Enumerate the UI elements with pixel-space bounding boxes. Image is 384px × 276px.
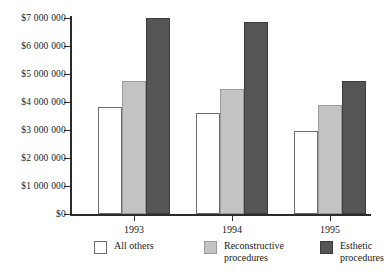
y-axis-tick-label: $0 bbox=[56, 209, 66, 219]
y-axis-tick-label: $2 000 000 bbox=[21, 153, 66, 163]
bar-1994-esthetic-procedures bbox=[244, 22, 268, 214]
y-axis-tick-label: $5 000 000 bbox=[21, 69, 66, 79]
legend-item-esthetic-procedures: Esthetic procedures bbox=[320, 240, 384, 264]
x-axis-line bbox=[70, 214, 371, 216]
bar-1995-all-others bbox=[294, 131, 318, 214]
x-axis-label-1994: 1994 bbox=[202, 224, 262, 236]
x-axis-tick bbox=[134, 215, 135, 221]
bar-1995-esthetic-procedures bbox=[342, 81, 366, 214]
bar-1995-reconstructive-procedures bbox=[318, 105, 342, 214]
y-axis-tick-label: $7 000 000 bbox=[21, 13, 66, 23]
legend-item-reconstructive-procedures: Reconstructive procedures bbox=[204, 240, 284, 264]
bar-chart: $0$1 000 000$2 000 000$3 000 000$4 000 0… bbox=[0, 0, 384, 276]
x-axis-label-1993: 1993 bbox=[104, 224, 164, 236]
x-axis-tick bbox=[232, 215, 233, 221]
legend-item-all-others: All others bbox=[94, 240, 154, 254]
legend-label: Reconstructive procedures bbox=[224, 240, 284, 264]
bar-1993-reconstructive-procedures bbox=[122, 81, 146, 214]
legend-swatch-icon bbox=[204, 241, 217, 254]
legend-swatch-icon bbox=[320, 241, 333, 254]
y-axis-tick-label: $4 000 000 bbox=[21, 97, 66, 107]
legend-label: All others bbox=[114, 240, 154, 252]
bar-1993-all-others bbox=[98, 107, 122, 214]
legend-label: Esthetic procedures bbox=[340, 240, 384, 264]
chart-legend: All othersReconstructive proceduresEsthe… bbox=[70, 240, 380, 274]
y-axis-tick-label: $1 000 000 bbox=[21, 181, 66, 191]
x-axis-label-1995: 1995 bbox=[300, 224, 360, 236]
legend-swatch-icon bbox=[94, 241, 107, 254]
y-axis-tick-label: $3 000 000 bbox=[21, 125, 66, 135]
bar-1993-esthetic-procedures bbox=[146, 18, 170, 214]
bar-1994-all-others bbox=[196, 113, 220, 214]
bar-1994-reconstructive-procedures bbox=[220, 89, 244, 214]
y-axis-tick-label: $6 000 000 bbox=[21, 41, 66, 51]
x-axis-tick bbox=[330, 215, 331, 221]
